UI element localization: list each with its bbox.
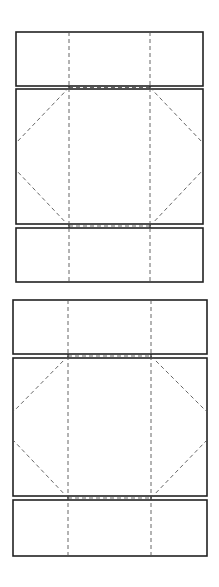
bottom-flap-outline: [13, 500, 207, 556]
diagonal-fold-line-0: [16, 88, 69, 144]
main-panel-outline: [16, 89, 203, 224]
top-flap-outline: [13, 300, 207, 354]
main-panel-outline: [13, 358, 207, 496]
diagonal-fold-line-2: [150, 88, 203, 144]
bottom-flap-outline: [16, 228, 203, 282]
template-2: [13, 300, 207, 556]
templates-group: [13, 32, 207, 556]
diagonal-fold-line-2: [151, 356, 207, 412]
top-flap-outline: [16, 32, 203, 86]
template-1: [16, 32, 203, 282]
box-net-diagram: [0, 0, 219, 587]
diagonal-fold-line-1: [13, 440, 68, 498]
diagonal-fold-line-0: [13, 356, 68, 412]
diagonal-fold-line-1: [16, 170, 69, 226]
diagonal-fold-line-3: [151, 440, 207, 498]
diagonal-fold-line-3: [150, 170, 203, 226]
